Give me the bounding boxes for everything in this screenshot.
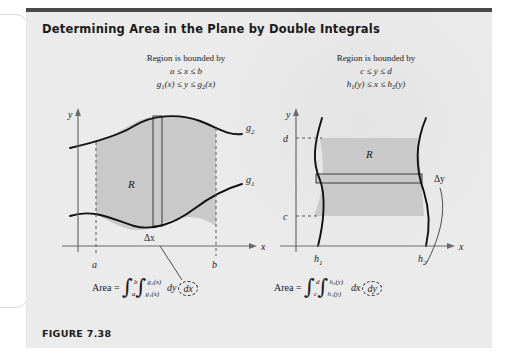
left-region-label: R [127, 178, 135, 190]
right-graph: y x d c h1 h2 R Δy [274, 104, 492, 272]
curve-label-g1: g1 [246, 174, 255, 188]
figure-title: Determining Area in the Plane by Double … [42, 22, 380, 36]
curve-label-h1: h1 [314, 253, 323, 267]
right-x-axis-arrow [447, 243, 455, 249]
figure-caption: FIGURE 7.38 [42, 328, 111, 339]
delta-x-label: Δx [144, 233, 155, 243]
tick-label-b: b [212, 259, 217, 270]
right-area-formula: Area = ∫dc ∫h₂(y)h₁(y) dxdy [274, 280, 382, 295]
left-y-axis-label: y [67, 109, 73, 120]
right-y-axis-arrow [293, 108, 299, 116]
left-panel-header: Region is bounded by a ≤ x ≤ b g1(x) ≤ y… [86, 52, 286, 91]
delta-y-strip [316, 174, 422, 183]
left-y-axis-arrow [75, 108, 81, 116]
left-x-axis-label: x [260, 241, 266, 252]
page-bleed-card [0, 14, 28, 308]
left-header-line-3: g1(x) ≤ y ≤ g2(x) [86, 78, 286, 91]
right-y-axis-label: y [285, 109, 291, 120]
curve-label-h2: h2 [418, 253, 427, 267]
delta-y-label: Δy [434, 174, 445, 184]
right-header-line-1: Region is bounded by [276, 52, 476, 65]
left-graph: y x a b g2 g1 R Δx [56, 104, 276, 272]
left-x-axis-arrow [249, 243, 257, 249]
right-formula-prefix: Area = [274, 282, 302, 293]
figure-box: Determining Area in the Plane by Double … [26, 8, 492, 348]
right-panel-header: Region is bounded by c ≤ y ≤ d h1(y) ≤ x… [276, 52, 476, 91]
right-header-line-2: c ≤ y ≤ d [276, 65, 476, 78]
left-inner-differential: dy [167, 282, 176, 293]
delta-x-leader-line [160, 246, 182, 280]
right-header-line-3: h1(y) ≤ x ≤ h2(y) [276, 78, 476, 91]
left-header-line-2: a ≤ x ≤ b [86, 65, 286, 78]
tick-label-d: d [283, 133, 289, 144]
tick-label-c: c [283, 211, 288, 222]
left-header-line-1: Region is bounded by [86, 52, 286, 65]
delta-x-strip [153, 116, 162, 226]
left-formula-prefix: Area = [92, 282, 120, 293]
right-x-axis-label: x [458, 241, 464, 252]
right-circled-differential: dy [362, 281, 381, 296]
left-area-formula: Area = ∫ba ∫g₂(x)g₁(x) dydx [92, 280, 198, 295]
left-circled-differential: dx [178, 281, 197, 296]
right-inner-differential: dx [351, 282, 360, 293]
curve-label-g2: g2 [246, 122, 255, 136]
right-region-label: R [365, 148, 373, 160]
tick-label-a: a [92, 259, 97, 270]
